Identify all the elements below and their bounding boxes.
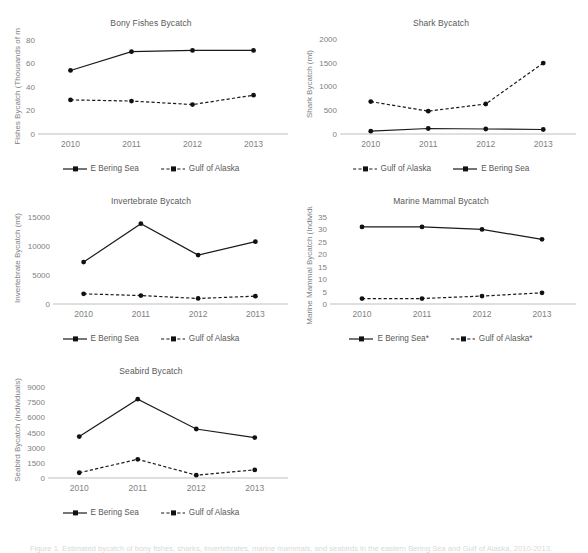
x-tick-label: 2011 <box>129 483 148 493</box>
chart-title: Shark Bycatch <box>300 18 582 28</box>
series-line-e-bering-sea <box>79 399 255 437</box>
data-point-marker <box>81 260 86 265</box>
data-point-marker <box>541 61 546 66</box>
x-tick-label: 2010 <box>70 483 89 493</box>
plot-area: Fishes Bycatch (Thousands of mt)02040608… <box>8 28 294 156</box>
series-line-e-bering-sea <box>371 129 544 132</box>
chart-title: Bony Fishes Bycatch <box>8 18 294 28</box>
plot-area: Invertebrate Bycatch (mt)050001000015000… <box>8 206 294 326</box>
legend-entry[interactable]: Gulf of Alaska <box>161 508 240 518</box>
legend-label: E Bering Sea <box>91 335 139 343</box>
x-tick-label: 2010 <box>61 139 80 149</box>
data-point-marker <box>480 227 485 232</box>
y-axis-title: Shark Bycatch (mt) <box>305 50 314 118</box>
legend-label: Gulf of Alaska <box>189 335 240 343</box>
y-tick-label: 15000 <box>28 213 51 222</box>
y-tick-label: 5 <box>323 288 328 297</box>
dashed-line-marker-icon <box>161 164 185 174</box>
legend-label: E Bering Sea* <box>377 335 428 343</box>
y-tick-label: 30 <box>318 225 327 234</box>
y-tick-label: 9000 <box>27 383 45 392</box>
data-point-marker <box>251 48 256 53</box>
y-tick-label: 4500 <box>27 429 45 438</box>
series-line-e-bering-sea <box>84 224 256 262</box>
y-tick-label: 80 <box>26 36 35 45</box>
y-tick-label: 5000 <box>32 271 50 280</box>
data-point-marker <box>194 473 199 478</box>
data-point-marker <box>420 225 425 230</box>
dashed-line-marker-icon <box>161 334 185 344</box>
chart-legend: E Bering Sea*Gulf of Alaska* <box>300 332 582 346</box>
y-tick-label: 6000 <box>27 413 45 422</box>
solid-line-marker-icon <box>349 334 373 344</box>
chart-panel-invertebrate: Invertebrate Bycatch Invertebrate Bycatc… <box>8 196 294 356</box>
legend-label: Gulf of Alaska* <box>479 335 533 343</box>
chart-panel-bony-fishes: Bony Fishes Bycatch Fishes Bycatch (Thou… <box>8 18 294 186</box>
figure-caption: Figure 1. Estimated bycatch of bony fish… <box>30 544 566 553</box>
data-point-marker <box>253 239 258 244</box>
data-point-marker <box>68 68 73 73</box>
legend-entry[interactable]: E Bering Sea <box>63 164 139 174</box>
x-tick-label: 2013 <box>533 309 552 319</box>
chart-legend: Gulf of AlaskaE Bering Sea <box>300 162 582 176</box>
legend-entry[interactable]: Gulf of Alaska <box>161 164 240 174</box>
y-tick-label: 25 <box>318 238 327 247</box>
data-point-marker <box>253 294 258 299</box>
y-tick-label: 0 <box>333 130 338 139</box>
legend-label: E Bering Sea <box>481 165 529 173</box>
x-tick-label: 2013 <box>245 483 264 493</box>
chart-title: Invertebrate Bycatch <box>8 196 294 206</box>
legend-label: E Bering Sea <box>91 165 139 173</box>
y-tick-label: 0 <box>323 300 328 309</box>
y-tick-label: 20 <box>26 106 35 115</box>
series-line-gulf-of-alaska <box>79 459 255 475</box>
series-line-gulf-of-alaska <box>84 294 256 299</box>
y-axis-title: Invertebrate Bycatch (mt) <box>13 213 22 303</box>
data-point-marker <box>483 102 488 107</box>
data-point-marker <box>252 468 257 473</box>
series-line-e-bering-sea <box>71 50 254 70</box>
y-tick-label: 1500 <box>27 459 45 468</box>
y-axis-title: Seabird Bycatch (Individuals) <box>13 378 22 482</box>
legend-entry[interactable]: Gulf of Alaska <box>161 334 240 344</box>
legend-entry[interactable]: Gulf of Alaska <box>353 164 432 174</box>
data-point-marker <box>251 93 256 98</box>
data-point-marker <box>77 434 82 439</box>
legend-entry[interactable]: E Bering Sea <box>453 164 529 174</box>
y-tick-label: 1500 <box>319 59 337 68</box>
dashed-line-marker-icon <box>161 508 185 518</box>
y-tick-label: 15 <box>318 263 327 272</box>
y-tick-label: 7500 <box>27 398 45 407</box>
legend-entry[interactable]: E Bering Sea* <box>349 334 428 344</box>
data-point-marker <box>196 296 201 301</box>
x-tick-label: 2010 <box>353 309 372 319</box>
data-point-marker <box>196 253 201 258</box>
plot-area: Seabird Bycatch (Individuals)01500300045… <box>8 376 294 500</box>
legend-entry[interactable]: E Bering Sea <box>63 508 139 518</box>
x-tick-label: 2013 <box>246 309 265 319</box>
legend-entry[interactable]: Gulf of Alaska* <box>451 334 533 344</box>
data-point-marker <box>541 127 546 132</box>
legend-entry[interactable]: E Bering Sea <box>63 334 139 344</box>
data-point-marker <box>420 296 425 301</box>
x-tick-label: 2013 <box>244 139 263 149</box>
dashed-line-marker-icon <box>451 334 475 344</box>
y-axis-title: Marine Mammal Bycatch (Individuals) <box>305 206 314 325</box>
legend-label: Gulf of Alaska <box>189 165 240 173</box>
y-tick-label: 60 <box>26 59 35 68</box>
chart-legend: E Bering SeaGulf of Alaska <box>8 332 294 346</box>
chart-legend: E Bering SeaGulf of Alaska <box>8 506 294 520</box>
y-tick-label: 3000 <box>27 444 45 453</box>
y-tick-label: 2000 <box>319 35 337 44</box>
y-tick-label: 0 <box>41 474 46 483</box>
x-tick-label: 2012 <box>183 139 202 149</box>
data-point-marker <box>138 293 143 298</box>
data-point-marker <box>360 225 365 230</box>
data-point-marker <box>190 102 195 107</box>
series-line-e-bering-sea- <box>362 227 542 239</box>
data-point-marker <box>252 435 257 440</box>
legend-label: Gulf of Alaska <box>381 165 432 173</box>
data-point-marker <box>135 457 140 462</box>
chart-svg-seabird: Seabird Bycatch (Individuals)01500300045… <box>8 376 294 500</box>
data-point-marker <box>129 99 134 104</box>
